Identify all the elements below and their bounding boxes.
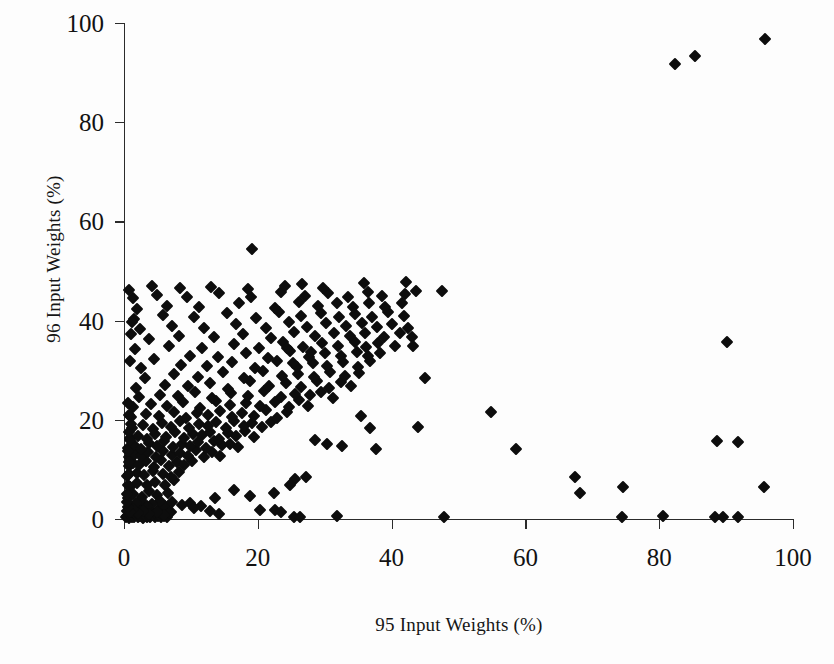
scatter-point [143, 333, 156, 346]
y-tick-label: 40 [79, 308, 104, 333]
scatter-point [300, 471, 313, 484]
x-tick-mark [258, 520, 259, 529]
y-tick-label: 20 [79, 407, 104, 432]
scatter-point [717, 510, 730, 523]
y-tick-mark [115, 321, 124, 322]
scatter-point [369, 442, 382, 455]
scatter-point [732, 435, 745, 448]
scatter-point [233, 297, 246, 310]
scatter-point [407, 340, 420, 353]
y-axis-title: 96 Input Weights (%) [43, 9, 65, 509]
scatter-point [128, 343, 141, 356]
scatter-point [209, 492, 222, 505]
scatter-point [669, 57, 682, 70]
scatter-point [221, 307, 234, 320]
scatter-point [203, 376, 216, 389]
y-tick-label: 80 [79, 110, 104, 135]
scatter-point [617, 480, 630, 493]
scatter-point [721, 336, 734, 349]
y-tick-mark [115, 122, 124, 123]
scatter-point [732, 510, 745, 523]
scatter-point [409, 285, 422, 298]
scatter-point [373, 347, 386, 360]
scatter-point [237, 328, 250, 341]
scatter-point [328, 327, 341, 340]
y-tick-mark [115, 420, 124, 421]
scatter-plot-figure: 020406080100 020406080100 95 Input Weigh… [0, 0, 834, 664]
scatter-point [330, 510, 343, 523]
y-tick-label: 100 [67, 11, 105, 36]
scatter-point [330, 296, 343, 309]
scatter-point [419, 372, 432, 385]
scatter-point [124, 355, 137, 368]
scatter-point [321, 437, 334, 450]
x-axis-line [124, 519, 794, 520]
scatter-point [437, 510, 450, 523]
scatter-point [201, 360, 214, 373]
x-tick-mark [659, 520, 660, 529]
x-tick-label: 0 [118, 545, 131, 570]
scatter-point [191, 370, 204, 383]
scatter-point [569, 471, 582, 484]
x-axis-title: 95 Input Weights (%) [124, 614, 794, 636]
scatter-point [239, 347, 252, 360]
scatter-point [689, 49, 702, 62]
x-tick-label: 40 [379, 545, 404, 570]
x-tick-label: 80 [647, 545, 672, 570]
scatter-point [510, 442, 523, 455]
scatter-point [181, 290, 194, 303]
y-tick-label: 0 [92, 507, 105, 532]
scatter-point [217, 366, 230, 379]
scatter-point [253, 342, 266, 355]
scatter-point [228, 338, 241, 351]
scatter-point [710, 434, 723, 447]
y-tick-mark [115, 23, 124, 24]
x-tick-mark [525, 520, 526, 529]
scatter-point [385, 317, 398, 330]
scatter-point [198, 321, 211, 334]
scatter-point [227, 484, 240, 497]
scatter-point [364, 421, 377, 434]
scatter-point [484, 406, 497, 419]
x-tick-label: 20 [245, 545, 270, 570]
scatter-point [336, 439, 349, 452]
scatter-point [163, 340, 176, 353]
scatter-point [759, 32, 772, 45]
scatter-point [435, 284, 448, 297]
scatter-point [362, 297, 375, 310]
scatter-point [574, 486, 587, 499]
scatter-point [615, 510, 628, 523]
scatter-point [183, 349, 196, 362]
scatter-point [208, 331, 221, 344]
scatter-point [250, 311, 263, 324]
scatter-point [296, 278, 309, 291]
x-tick-label: 100 [774, 545, 812, 570]
x-tick-label: 60 [513, 545, 538, 570]
scatter-point [195, 342, 208, 355]
scatter-point [172, 330, 185, 343]
scatter-points-layer [124, 23, 793, 519]
scatter-point [400, 276, 413, 289]
scatter-point [412, 420, 425, 433]
scatter-point [246, 242, 259, 255]
y-tick-mark [115, 221, 124, 222]
scatter-point [254, 504, 267, 517]
x-tick-mark [392, 520, 393, 529]
scatter-point [267, 487, 280, 500]
scatter-point [167, 368, 180, 381]
scatter-point [243, 490, 256, 503]
y-tick-label: 60 [79, 209, 104, 234]
scatter-point [757, 481, 770, 494]
scatter-point [148, 352, 161, 365]
scatter-point [226, 356, 239, 369]
scatter-point [376, 290, 389, 303]
scatter-point [397, 310, 410, 323]
scatter-point [354, 409, 367, 422]
scatter-point [389, 340, 402, 353]
scatter-point [211, 351, 224, 364]
x-tick-mark [793, 520, 794, 529]
